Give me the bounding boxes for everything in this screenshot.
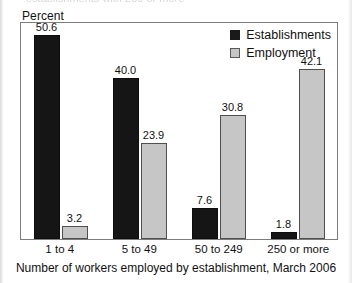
scan-edge-right — [348, 0, 352, 283]
bar-value-label: 40.0 — [115, 65, 136, 76]
bar-value-label: 50.6 — [36, 22, 57, 33]
bar[interactable]: 1.8 — [271, 232, 297, 239]
bar-slot: 50.6 — [34, 35, 60, 239]
bar-slot: 42.1 — [299, 69, 325, 239]
chart-figure: establishments with 250 or more Percent … — [0, 0, 352, 283]
x-axis-category-labels: 1 to 45 to 4950 to 249250 or more — [20, 243, 338, 255]
bar[interactable]: 42.1 — [299, 69, 325, 239]
bar[interactable]: 23.9 — [141, 143, 167, 239]
x-axis-tick-label: 50 to 249 — [179, 243, 259, 255]
legend-swatch-establishments — [230, 30, 240, 40]
legend-label-establishments: Establishments — [246, 29, 331, 42]
bar-group: 40.023.9 — [100, 23, 179, 239]
x-axis-tick-label: 250 or more — [259, 243, 339, 255]
bar[interactable]: 7.6 — [192, 208, 218, 239]
bar-value-label: 1.8 — [276, 219, 291, 230]
legend-item-employment: Employment — [230, 47, 315, 60]
legend-swatch-employment — [230, 48, 240, 58]
bar-value-label: 30.8 — [222, 102, 243, 113]
bar-value-label: 23.9 — [143, 130, 164, 141]
x-axis-tick-label: 1 to 4 — [20, 243, 100, 255]
bar-slot: 1.8 — [271, 232, 297, 239]
legend: Establishments Employment — [230, 29, 331, 59]
x-axis-tick-label: 5 to 49 — [100, 243, 180, 255]
scan-edge-left — [0, 0, 3, 283]
bar-slot: 3.2 — [62, 226, 88, 239]
bar[interactable]: 40.0 — [113, 78, 139, 239]
legend-label-employment: Employment — [246, 47, 315, 60]
cropped-header-text: establishments with 250 or more — [26, 0, 326, 3]
bar-slot: 30.8 — [220, 115, 246, 239]
bar-slot: 7.6 — [192, 208, 218, 239]
x-axis-title: Number of workers employed by establishm… — [0, 262, 352, 275]
plot-area: 50.63.240.023.97.630.81.842.1 Establishm… — [20, 22, 338, 240]
bar-slot: 40.0 — [113, 78, 139, 239]
bar-group: 50.63.2 — [21, 23, 100, 239]
bar[interactable]: 3.2 — [62, 226, 88, 239]
bar[interactable]: 30.8 — [220, 115, 246, 239]
bar[interactable]: 50.6 — [34, 35, 60, 239]
bar-value-label: 3.2 — [67, 213, 82, 224]
bar-value-label: 7.6 — [197, 195, 212, 206]
legend-item-establishments: Establishments — [230, 29, 331, 42]
bar-slot: 23.9 — [141, 143, 167, 239]
